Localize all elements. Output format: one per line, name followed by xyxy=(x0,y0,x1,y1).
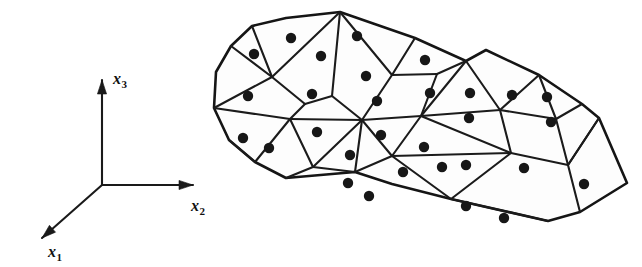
axis-label-base-x2: x xyxy=(190,197,199,214)
figure-container: x3x2x1 xyxy=(0,0,642,267)
node-dot-5 xyxy=(420,55,430,65)
mesh-figure-svg: x3x2x1 xyxy=(0,0,642,267)
node-dot-26 xyxy=(519,163,529,173)
node-dot-22 xyxy=(364,191,374,201)
node-dot-9 xyxy=(425,88,435,98)
coordinate-axes xyxy=(42,80,193,238)
node-dot-18 xyxy=(419,142,429,152)
node-dot-4 xyxy=(361,71,371,81)
node-dot-13 xyxy=(238,133,248,143)
node-dot-8 xyxy=(372,96,382,106)
node-dot-15 xyxy=(312,127,322,137)
axis-arrowheads xyxy=(42,80,193,238)
node-dot-28 xyxy=(461,201,471,211)
node-dot-12 xyxy=(542,92,552,102)
axis-label-x2: x2 xyxy=(190,197,206,217)
node-dot-23 xyxy=(398,167,408,177)
axis-arrowhead-x2 xyxy=(179,180,193,189)
node-dot-11 xyxy=(507,90,517,100)
node-dot-24 xyxy=(437,162,447,172)
node-dot-29 xyxy=(499,213,509,223)
node-dot-27 xyxy=(579,179,589,189)
node-dot-1 xyxy=(286,33,296,43)
axis-arrowhead-x3 xyxy=(97,80,106,94)
node-dot-17 xyxy=(345,150,355,160)
node-dot-10 xyxy=(465,88,475,98)
axis-label-sub-x1: 1 xyxy=(57,251,63,263)
node-dot-14 xyxy=(264,143,274,153)
axis-label-sub-x3: 3 xyxy=(122,78,128,90)
node-dot-19 xyxy=(464,113,474,123)
axis-label-base-x1: x xyxy=(47,243,56,260)
node-dot-21 xyxy=(343,178,353,188)
axis-label-x3: x3 xyxy=(112,70,128,90)
node-dot-6 xyxy=(243,91,253,101)
node-dot-2 xyxy=(316,51,326,61)
axis-label-sub-x2: 2 xyxy=(200,205,206,217)
axis-labels: x3x2x1 xyxy=(47,70,206,263)
axis-label-base-x3: x xyxy=(112,70,121,87)
axis-lines xyxy=(42,80,193,238)
node-dot-7 xyxy=(307,89,317,99)
mesh-edge-30 xyxy=(290,119,362,120)
axis-label-x1: x1 xyxy=(47,243,62,263)
node-dot-20 xyxy=(546,117,556,127)
node-dot-0 xyxy=(249,49,259,59)
element-mesh xyxy=(214,12,627,223)
node-dot-16 xyxy=(376,130,386,140)
mesh-edge-10 xyxy=(392,74,437,75)
node-dot-3 xyxy=(352,31,362,41)
node-dot-25 xyxy=(461,160,471,170)
